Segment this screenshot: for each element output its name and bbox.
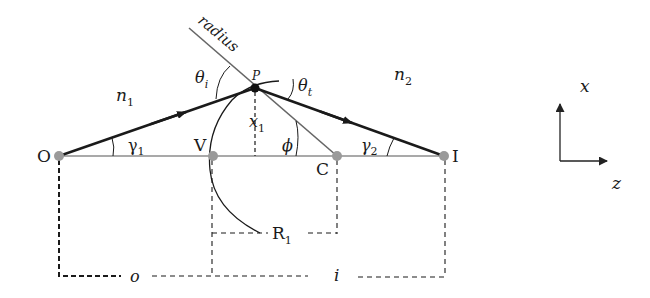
refraction-diagram: radius n1 n2 θi θt P x1 ϕ γ1 γ2 O V C I … <box>0 0 650 298</box>
x-axis-label: x <box>580 76 590 96</box>
coordinate-axes-icon: x z <box>560 76 622 193</box>
theta-i-label: θi <box>195 68 208 91</box>
point-I-label: I <box>452 146 459 166</box>
point-V-marker <box>208 151 218 161</box>
point-P-label: P <box>251 69 261 83</box>
incident-ray-arrow <box>150 112 186 124</box>
refracted-ray-arrow <box>320 111 352 123</box>
radius-label: radius <box>194 11 242 56</box>
refracting-surface-arc <box>209 81 279 233</box>
point-V-label: V <box>193 135 207 155</box>
gamma1-label: γ1 <box>128 136 145 158</box>
point-I-marker <box>439 151 449 161</box>
point-O-marker <box>54 151 64 161</box>
phi-arc <box>296 121 298 156</box>
n1-label: n1 <box>116 85 134 109</box>
n2-label: n2 <box>394 64 412 88</box>
gamma2-label: γ2 <box>361 136 378 158</box>
theta-t-arc <box>288 79 293 99</box>
point-C-marker <box>332 151 342 161</box>
object-distance-bracket-left <box>59 160 121 276</box>
gamma1-arc <box>112 138 114 156</box>
theta-i-arc <box>216 66 230 99</box>
point-P-marker <box>251 84 260 93</box>
gamma2-arc <box>387 138 394 156</box>
theta-t-label: θt <box>298 76 313 99</box>
object-distance-label: o <box>130 267 140 286</box>
z-axis-label: z <box>611 173 622 193</box>
image-distance-label: i <box>334 265 339 285</box>
point-O-label: O <box>37 146 51 166</box>
phi-label: ϕ <box>282 136 293 155</box>
point-C-label: C <box>316 159 329 179</box>
x1-label: x1 <box>249 112 265 135</box>
R1-label: R1 <box>272 223 292 247</box>
